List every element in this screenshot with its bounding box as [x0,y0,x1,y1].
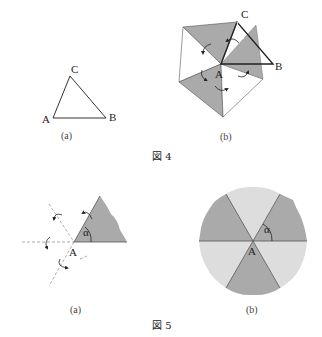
fig5b-sublabel: (b) [246,304,258,316]
fig4a-sublabel: (a) [61,130,72,142]
fig5a-sublabel: (a) [70,304,81,316]
fig5b-disk [199,187,307,295]
fig4b-label-b: B [275,60,282,72]
fig4b-folded-triangles [179,22,273,117]
fig5a-label-a: A [69,246,77,258]
fig4b-label-c: C [241,8,248,20]
fig4a-triangle [53,76,106,118]
fig4b-sublabel: (b) [220,131,232,143]
fig5b-label-a: A [248,245,256,257]
fig4a-label-c: C [71,63,78,75]
fig5a-wedge [74,196,127,242]
fig5-caption: 図 5 [152,320,172,331]
figure-canvas: C A B (a) C A B (b) 図 4 [0,0,322,337]
fig5a-alpha-label: α [83,226,89,238]
fig4-caption: 図 4 [152,151,172,162]
fig5b-alpha-label: α [264,223,270,235]
fig4a-label-b: B [109,111,116,123]
fig4b-label-a: A [215,68,223,80]
fig4a-label-a: A [42,113,50,125]
